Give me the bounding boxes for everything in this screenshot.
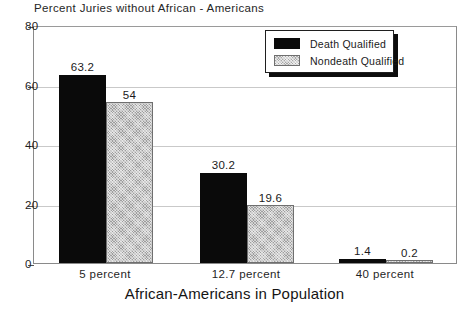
bar-value-label: 30.2 xyxy=(212,159,236,171)
bar-value-label: 0.2 xyxy=(401,247,418,259)
black-swatch-icon xyxy=(274,38,300,49)
x-axis-tick-label: 40 percent xyxy=(356,268,414,280)
legend-label: Death Qualified xyxy=(310,38,386,50)
x-axis-tick-label: 12.7 percent xyxy=(212,268,281,280)
x-axis-title: African-Americans in Population xyxy=(0,285,469,302)
bar: 54 xyxy=(106,102,153,263)
bar: 1.4 xyxy=(339,259,386,263)
x-axis-tick-label: 5 percent xyxy=(79,268,131,280)
bar-value-label: 63.2 xyxy=(71,61,95,73)
bar-value-label: 19.6 xyxy=(259,192,283,204)
bar: 19.6 xyxy=(247,205,294,263)
bar: 0.2 xyxy=(386,260,433,263)
chart-title: Percent Juries without African - America… xyxy=(34,2,264,14)
bar-value-label: 54 xyxy=(123,89,136,101)
legend-item-death-qualified[interactable]: Death Qualified xyxy=(274,36,386,51)
legend: Death Qualified Nondeath Qualified xyxy=(265,30,394,73)
bar: 63.2 xyxy=(59,75,106,263)
bar: 30.2 xyxy=(200,173,247,263)
bar-value-label: 1.4 xyxy=(354,245,371,257)
legend-label: Nondeath Qualified xyxy=(310,55,404,67)
gray-hatched-swatch-icon xyxy=(274,55,300,66)
legend-item-nondeath-qualified[interactable]: Nondeath Qualified xyxy=(274,53,404,68)
